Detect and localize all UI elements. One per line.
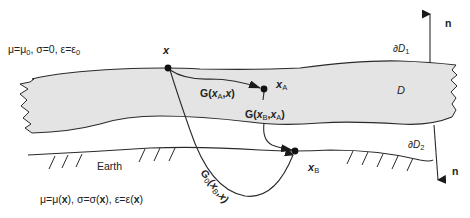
normal-bottom-label: n — [452, 165, 458, 177]
boundary-d1-label: ∂D1 — [393, 43, 409, 56]
point-x-label: x — [162, 44, 170, 56]
point-xB-label: xB — [307, 161, 319, 175]
boundary-d2-label: ∂D2 — [408, 139, 424, 152]
domain-diagram: μ=μ0, σ=0, ε=ε0 x G(xA,x) xA G(xB,xA) D … — [0, 0, 470, 218]
domain-d-label: D — [397, 84, 405, 96]
diagram-canvas: μ=μ0, σ=0, ε=ε0 x G(xA,x) xA G(xB,xA) D … — [0, 0, 470, 218]
point-xA — [261, 86, 268, 93]
point-xB — [292, 148, 299, 155]
earth-params-label: μ=μ(x), σ=σ(x), ε=ε(x) — [40, 193, 143, 205]
earth-surface-line — [28, 147, 433, 161]
green0-xB-x-label: G0(xB,x) — [197, 167, 232, 206]
point-x — [165, 65, 172, 72]
free-space-params-label: μ=μ0, σ=0, ε=ε0 — [8, 43, 80, 57]
normal-vector-bottom — [434, 125, 438, 180]
earth-label: Earth — [97, 160, 122, 172]
normal-top-label: n — [445, 17, 451, 29]
green-xA-x-label: G(xA,x) — [200, 87, 235, 101]
